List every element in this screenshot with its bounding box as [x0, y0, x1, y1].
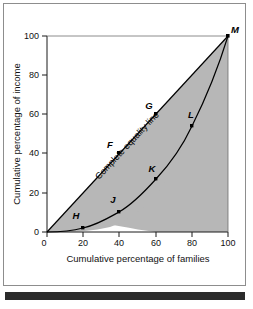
ytick-label-40: 40 [29, 148, 39, 158]
xtick-label-80: 80 [187, 238, 197, 248]
point-label-m: M [231, 24, 240, 35]
marker-point-k [154, 177, 157, 180]
marker-point-g [154, 112, 157, 115]
marker-point-m [226, 34, 230, 38]
lorenz-curve-figure: 100 80 60 40 20 0 0 20 40 60 80 100 Cumu… [0, 0, 253, 309]
point-label-f: F [107, 139, 113, 150]
xtick-label-100: 100 [220, 238, 235, 248]
point-label-k: K [149, 163, 157, 174]
marker-point-j [117, 210, 120, 213]
ytick-label-80: 80 [29, 70, 39, 80]
point-label-g: G [145, 100, 153, 111]
chart-canvas: 100 80 60 40 20 0 0 20 40 60 80 100 Cumu… [0, 0, 253, 309]
ytick-label-100: 100 [24, 31, 39, 41]
xtick-label-40: 40 [114, 238, 124, 248]
ytick-label-20: 20 [29, 188, 39, 198]
xtick-label-0: 0 [41, 238, 46, 248]
xtick-label-60: 60 [151, 238, 161, 248]
marker-point-f [117, 151, 120, 154]
y-axis-title: Cumulative percentage of income [11, 63, 22, 205]
xtick-label-20: 20 [78, 238, 88, 248]
ytick-label-0: 0 [34, 227, 39, 237]
point-label-l: L [188, 109, 194, 120]
point-label-h: H [73, 210, 81, 221]
ytick-label-60: 60 [29, 109, 39, 119]
marker-point-h [81, 226, 84, 229]
x-axis-title: Cumulative percentage of families [66, 253, 209, 264]
marker-point-l [190, 124, 193, 127]
point-label-j: J [110, 194, 116, 205]
